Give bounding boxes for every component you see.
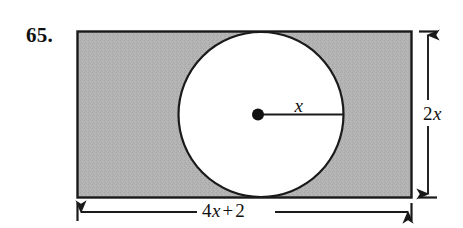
geometry-figure: 65. x 2x 4x+2 <box>0 0 463 228</box>
width-label: 4x+2 <box>202 201 245 220</box>
center-point-dot <box>252 109 264 121</box>
width-label-constant: 2 <box>235 200 245 221</box>
radius-label: x <box>294 96 303 115</box>
width-label-coefficient: 4 <box>202 200 212 221</box>
height-label: 2x <box>423 104 441 123</box>
figure-drawing <box>0 0 463 228</box>
radius-label-variable: x <box>294 95 303 116</box>
height-label-coefficient: 2 <box>423 103 433 124</box>
problem-number: 65. <box>26 25 53 46</box>
height-label-variable: x <box>433 103 442 124</box>
width-label-operator: + <box>220 200 235 221</box>
